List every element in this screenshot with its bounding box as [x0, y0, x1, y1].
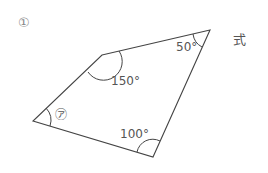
angle-label-100: 100°	[120, 128, 149, 140]
angle-label-unknown: ㋐	[55, 109, 67, 121]
angle-label-50: 50°	[176, 41, 197, 53]
arc-left	[46, 108, 51, 126]
formula-label: 式	[233, 33, 246, 46]
problem-number: ①	[18, 16, 30, 29]
angle-label-150: 150°	[111, 75, 140, 87]
